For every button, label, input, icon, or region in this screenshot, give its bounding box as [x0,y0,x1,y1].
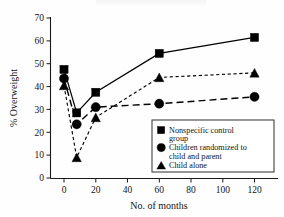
data-point-square-x0 [60,65,68,73]
data-point-square-x8 [73,109,81,117]
data-point-circle-x8 [72,120,81,129]
x-tick-label-100: 100 [216,185,231,195]
y-tick-label-10: 10 [35,150,45,160]
x-tick-label-0: 0 [62,185,67,195]
x-tick-label-60: 60 [155,185,165,195]
chart-figure: 70 60 50 40 30 20 10 0 0 20 40 60 80 100 [0,0,284,217]
y-axis-title: % Overweight [8,69,19,127]
legend-square-marker-icon [158,127,165,134]
y-tick-label-40: 40 [35,82,45,92]
legend-label-randomized-line2: child and parent [169,152,222,161]
data-point-circle-x120 [250,92,259,101]
data-point-circle-x60 [155,99,164,108]
legend-label-child-alone: Child alone [169,161,207,170]
y-tick-label-50: 50 [35,59,45,69]
data-point-square-x120 [250,33,258,41]
data-point-triangle-x60 [155,73,164,82]
x-tick-label-80: 80 [186,185,196,195]
data-point-square-x60 [155,49,163,57]
line-chart: 70 60 50 40 30 20 10 0 0 20 40 60 80 100 [0,0,284,217]
data-point-triangle-x8 [72,153,81,162]
y-tick-labels: 70 60 50 40 30 20 10 0 [35,13,45,183]
chart-legend: Nonspecific control group Children rando… [152,120,274,172]
y-tick-label-20: 20 [35,128,45,138]
y-tick-label-70: 70 [35,13,45,23]
x-tick-label-20: 20 [91,185,101,195]
y-tick-label-30: 30 [35,105,45,115]
data-point-circle-x20 [91,103,100,112]
y-tick-label-0: 0 [39,173,44,183]
x-tick-label-120: 120 [247,185,262,195]
x-axis [51,179,279,183]
legend-circle-marker-icon [157,144,165,152]
legend-label-control-line2: group [169,134,188,143]
x-axis-title: No. of months [130,200,188,211]
x-tick-label-40: 40 [123,185,133,195]
data-point-triangle-x20 [91,113,100,122]
y-tick-label-60: 60 [35,36,45,46]
y-axis [47,17,51,179]
data-point-square-x20 [92,88,100,96]
x-tick-labels: 0 20 40 60 80 100 120 [62,185,262,195]
